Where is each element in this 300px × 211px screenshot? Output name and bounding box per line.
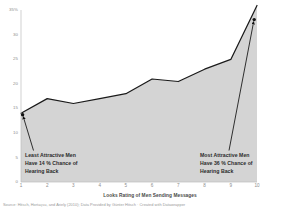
x-tick-label: 3 (66, 184, 80, 189)
x-tick-label: 10 (250, 184, 264, 189)
annotation-line: Hearing Back (25, 168, 78, 176)
annotation-line: Hearing Back (200, 168, 253, 176)
chart-plot (0, 0, 300, 211)
x-axis-title: Looks Rating of Men Sending Messages (0, 193, 300, 198)
x-tick-label: 7 (171, 184, 185, 189)
annotation-line: Least Attractive Men (25, 152, 78, 160)
annotation-line: Most Attractive Men (200, 152, 253, 160)
x-tick-label: 6 (145, 184, 159, 189)
x-tick-label: 2 (40, 184, 54, 189)
annotation-least-attractive: Least Attractive Men Have 14 % Chance of… (25, 152, 78, 176)
annotation-most-attractive: Most Attractive Men Have 36 % Chance of … (200, 152, 253, 176)
x-tick-label: 5 (119, 184, 133, 189)
x-tick-label: 9 (224, 184, 238, 189)
annotation-point-right (253, 18, 256, 21)
x-tick-label: 8 (198, 184, 212, 189)
annotation-point-left (21, 113, 24, 116)
x-tick-label: 4 (93, 184, 107, 189)
chart-container: 35% 30 25 20 15 10 5 0 1 2 3 4 5 (0, 0, 300, 211)
annotation-line: Have 36 % Chance of (200, 160, 253, 168)
source-note: Source: Hitsch, Hortaçsu, and Ariely (20… (3, 202, 297, 207)
x-tick-label: 1 (14, 184, 28, 189)
annotation-line: Have 14 % Chance of (25, 160, 78, 168)
